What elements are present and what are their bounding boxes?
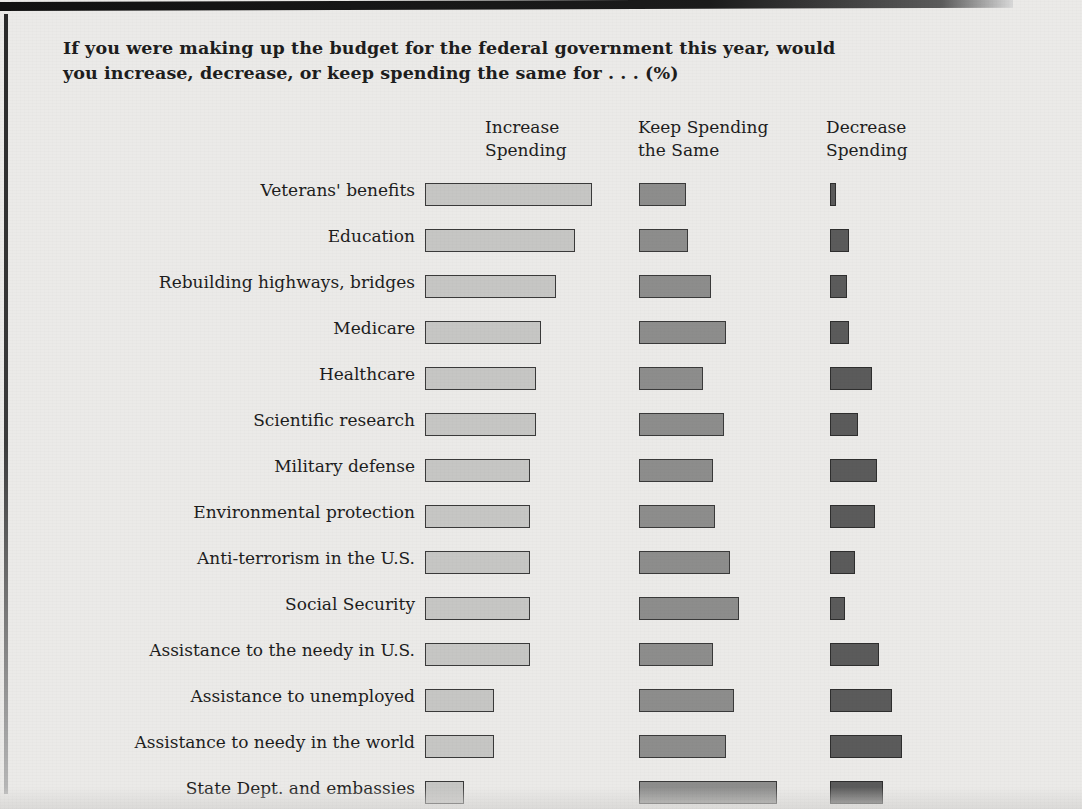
row-label: Veterans' benefits: [25, 180, 415, 201]
bar-decrease: [830, 689, 892, 712]
bar-decrease: [830, 551, 855, 574]
bar-decrease: [830, 229, 849, 252]
row-label: Assistance to the needy in U.S.: [25, 640, 415, 661]
bar-increase: [425, 413, 536, 436]
page-top-rule: [0, 0, 1013, 11]
bar-same: [639, 275, 711, 298]
bar-decrease: [830, 413, 858, 436]
bar-increase: [425, 367, 536, 390]
bar-same: [639, 413, 724, 436]
row-label: Rebuilding highways, bridges: [25, 272, 415, 293]
bar-decrease: [830, 505, 875, 528]
chart-question-title: If you were making up the budget for the…: [63, 36, 863, 86]
chart-row: Veterans' benefits: [0, 177, 1082, 223]
bar-decrease: [830, 321, 849, 344]
bar-decrease: [830, 597, 845, 620]
bar-increase: [425, 321, 541, 344]
bar-same: [639, 367, 703, 390]
column-header-keep-spending-same: Keep Spending the Same: [638, 116, 768, 161]
bar-same: [639, 597, 739, 620]
page-bottom-shadow: [0, 787, 1082, 809]
bar-same: [639, 551, 730, 574]
column-headers: Increase Spending Keep Spending the Same…: [0, 116, 1082, 168]
row-label: Anti-terrorism in the U.S.: [25, 548, 415, 569]
bar-increase: [425, 459, 530, 482]
column-header-decrease-spending: Decrease Spending: [826, 116, 908, 161]
row-label: Medicare: [25, 318, 415, 339]
bar-same: [639, 643, 713, 666]
row-label: Social Security: [25, 594, 415, 615]
row-label: Education: [25, 226, 415, 247]
chart-row: Rebuilding highways, bridges: [0, 269, 1082, 315]
chart-row: Assistance to the needy in U.S.: [0, 637, 1082, 683]
bar-increase: [425, 505, 530, 528]
bar-increase: [425, 643, 530, 666]
chart-row: Medicare: [0, 315, 1082, 361]
bar-same: [639, 505, 715, 528]
bar-increase: [425, 183, 592, 206]
bar-increase: [425, 229, 575, 252]
bar-same: [639, 229, 688, 252]
row-label: Assistance to unemployed: [25, 686, 415, 707]
chart-row: Assistance to unemployed: [0, 683, 1082, 729]
chart-row: Anti-terrorism in the U.S.: [0, 545, 1082, 591]
chart-row: Healthcare: [0, 361, 1082, 407]
bar-increase: [425, 689, 494, 712]
row-label: Military defense: [25, 456, 415, 477]
bar-decrease: [830, 275, 847, 298]
row-label: Scientific research: [25, 410, 415, 431]
row-label: Environmental protection: [25, 502, 415, 523]
bar-decrease: [830, 735, 902, 758]
bar-same: [639, 459, 713, 482]
bar-same: [639, 689, 734, 712]
chart-row: Education: [0, 223, 1082, 269]
bar-increase: [425, 551, 530, 574]
bar-increase: [425, 597, 530, 620]
chart-row: Scientific research: [0, 407, 1082, 453]
bar-same: [639, 183, 686, 206]
chart-page: If you were making up the budget for the…: [0, 0, 1082, 809]
chart-row: Social Security: [0, 591, 1082, 637]
column-header-increase-spending: Increase Spending: [485, 116, 567, 161]
row-label: Healthcare: [25, 364, 415, 385]
bar-same: [639, 735, 726, 758]
chart-rows: Veterans' benefitsEducationRebuilding hi…: [0, 177, 1082, 809]
bar-decrease: [830, 183, 836, 206]
chart-row: Assistance to needy in the world: [0, 729, 1082, 775]
bar-decrease: [830, 459, 877, 482]
bar-increase: [425, 735, 494, 758]
chart-row: Military defense: [0, 453, 1082, 499]
row-label: Assistance to needy in the world: [25, 732, 415, 753]
bar-decrease: [830, 643, 879, 666]
bar-increase: [425, 275, 556, 298]
bar-same: [639, 321, 726, 344]
chart-row: Environmental protection: [0, 499, 1082, 545]
bar-decrease: [830, 367, 872, 390]
